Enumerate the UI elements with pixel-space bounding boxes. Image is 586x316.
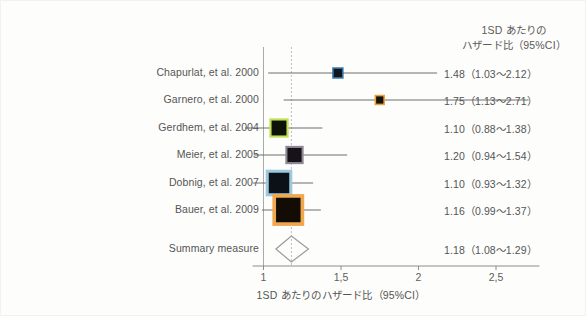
study-result-value: 1.48（1.03〜2.12）: [444, 66, 584, 81]
study-label: Meier, et al. 2005: [111, 148, 259, 160]
summary-result-value: 1.18（1.08〜1.29）: [444, 242, 584, 257]
study-label: Chapurlat, et al. 2000: [111, 66, 259, 78]
study-marker: [267, 171, 291, 195]
x-axis-title: 1SD あたりのハザード比（95%CI）: [201, 287, 481, 302]
study-marker: [270, 119, 287, 136]
study-label: Bauer, et al. 2009: [111, 203, 259, 215]
study-marker: [333, 68, 343, 78]
study-label: Gerdhem, et al. 2004: [111, 121, 259, 133]
study-result-value: 1.10（0.88〜1.38）: [444, 121, 584, 136]
x-axis-tick-label: 2: [404, 271, 434, 283]
x-axis-tick-label: 1: [249, 271, 279, 283]
study-result-value: 1.75（1.13〜2.71）: [444, 93, 584, 108]
study-label: Garnero, et al. 2000: [111, 93, 259, 105]
forest-plot-figure: 1SD あたりの ハザード比（95%CI） Chapurlat, et al. …: [0, 0, 586, 316]
study-result-value: 1.10（0.93〜1.32）: [444, 176, 584, 191]
summary-label: Summary measure: [111, 242, 259, 254]
study-result-value: 1.16（0.99〜1.37）: [444, 203, 584, 218]
study-marker: [286, 147, 302, 163]
study-result-value: 1.20（0.94〜1.54）: [444, 148, 584, 163]
x-axis-tick-label: 2,5: [481, 271, 511, 283]
study-marker: [375, 96, 384, 105]
study-marker: [274, 196, 302, 224]
summary-diamond: [276, 236, 309, 262]
x-axis-tick-label: 1,5: [326, 271, 356, 283]
study-label: Dobnig, et al. 2007: [111, 176, 259, 188]
